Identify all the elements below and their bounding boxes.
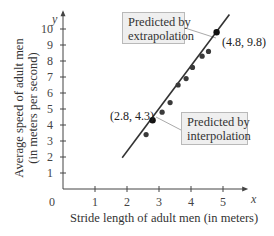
x-axis-variable: x — [250, 192, 257, 206]
y-tick-label: 4 — [47, 118, 53, 132]
data-point — [176, 82, 181, 87]
y-tick-label: 9 — [47, 38, 53, 52]
y-tick-label: 3 — [47, 134, 53, 148]
data-point — [168, 100, 173, 105]
y-tick-label: 2 — [47, 150, 53, 164]
y-tick-label: 1 — [47, 166, 53, 180]
y-tick-label: 8 — [47, 54, 53, 68]
extrapolation-callout-line-2: extrapolation — [128, 29, 179, 43]
x-tick-label: 2 — [124, 195, 130, 209]
data-point — [160, 110, 165, 115]
data-point — [184, 76, 189, 81]
predicted-point — [213, 29, 219, 35]
x-tick-label: 3 — [156, 195, 162, 209]
x-axis-title: Stride length of adult men (in meters) — [70, 211, 258, 225]
interpolation-leader-line — [156, 117, 181, 130]
y-tick-label: 7 — [47, 70, 53, 84]
extrapolation-callout: Predicted by extrapolation — [122, 12, 185, 44]
origin-label: 0 — [49, 195, 55, 209]
data-point — [206, 49, 211, 54]
data-point — [200, 54, 205, 59]
y-tick-label: 5 — [47, 102, 53, 116]
y-axis-title-line-2: (in meters per second) — [26, 52, 40, 163]
data-point — [190, 65, 195, 70]
extrapolation-point-label: (4.8, 9.8) — [222, 35, 266, 49]
x-tick-label: 1 — [92, 195, 98, 209]
extrapolation-callout-line-1: Predicted by — [128, 15, 179, 29]
x-axis-arrow-icon — [242, 187, 248, 192]
interpolation-point-label: (2.8, 4.3) — [110, 109, 154, 123]
x-tick-label: 4 — [188, 195, 194, 209]
y-tick-label: 6 — [47, 86, 53, 100]
interpolation-callout-line-1: Predicted by — [187, 115, 242, 129]
interpolation-callout: Predicted by interpolation — [181, 112, 248, 145]
y-axis-title-line-1: Average speed of adult men — [12, 38, 26, 178]
interpolation-callout-line-2: interpolation — [187, 129, 242, 143]
y-axis-variable: y — [51, 12, 58, 26]
x-tick-label: 5 — [220, 195, 226, 209]
data-point — [144, 132, 149, 137]
y-axis-arrow-icon — [61, 10, 66, 16]
